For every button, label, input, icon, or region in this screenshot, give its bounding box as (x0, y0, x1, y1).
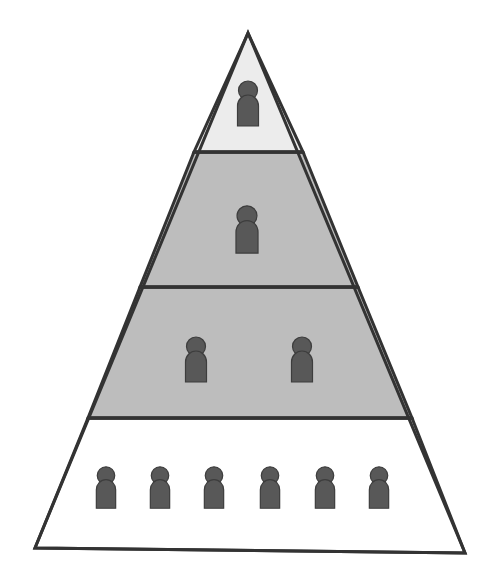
person-icon[interactable] (236, 206, 258, 253)
person-icon[interactable] (186, 337, 207, 382)
person-icon[interactable] (238, 81, 259, 126)
tier-2-people (236, 206, 258, 253)
person-icon[interactable] (369, 467, 388, 508)
pyramid-diagram-root (0, 0, 493, 581)
person-icon[interactable] (96, 467, 115, 508)
person-icon[interactable] (204, 467, 223, 508)
person-icon[interactable] (150, 467, 169, 508)
person-icon[interactable] (292, 337, 313, 382)
tier-1-people (238, 81, 259, 126)
person-icon[interactable] (315, 467, 334, 508)
person-icon[interactable] (260, 467, 279, 508)
pyramid-diagram-svg (0, 0, 493, 581)
